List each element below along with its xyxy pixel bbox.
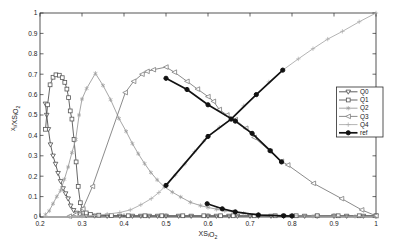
marker-plus-icon [326, 37, 330, 41]
marker-asterisk-icon [66, 165, 70, 169]
y-tick-label: 0.3 [28, 152, 37, 159]
marker-square-icon [68, 109, 72, 113]
marker-triangle-left-icon [172, 70, 177, 75]
marker-triangle-down-icon [58, 180, 63, 184]
marker-circle-filled-icon [254, 93, 258, 97]
series-line [46, 75, 377, 216]
x-tick-label: 0.5 [161, 220, 170, 227]
marker-square-icon [63, 80, 67, 84]
series-Q4 [67, 11, 378, 219]
marker-square-icon [60, 76, 64, 80]
marker-square-icon [336, 214, 340, 218]
marker-circle-filled-icon [164, 183, 168, 187]
marker-circle-filled-icon [256, 213, 260, 217]
marker-circle-filled-icon [290, 214, 294, 218]
chart-figure: 0.20.30.40.50.60.70.80.9100.10.20.30.40.… [0, 0, 395, 244]
marker-square-icon [44, 127, 48, 131]
x-tick-label: 1 [374, 220, 378, 227]
y-axis-label: xi/XSiO2 [9, 105, 21, 131]
marker-triangle-left-icon [145, 69, 150, 74]
x-tick-label: 0.9 [329, 220, 338, 227]
x-tick-label: 0.7 [245, 220, 254, 227]
marker-triangle-left-icon [339, 196, 344, 201]
marker-square-icon [160, 214, 164, 218]
y-tick-label: 0.6 [28, 91, 37, 98]
series-line [46, 104, 377, 216]
marker-asterisk-icon [179, 195, 183, 199]
marker-circle-filled-icon [185, 87, 189, 91]
series-Q3 [67, 65, 378, 219]
y-tick-label: 0.8 [28, 50, 37, 57]
legend: Q0Q1Q2Q3Q4ref [337, 87, 384, 137]
marker-triangle-left-icon [285, 163, 290, 168]
marker-circle-filled-icon [233, 119, 237, 123]
marker-plus-icon [357, 20, 361, 24]
marker-triangle-left-icon [151, 67, 156, 72]
marker-square-icon [76, 185, 80, 189]
marker-plus-icon [128, 208, 132, 212]
marker-square-icon [357, 214, 361, 218]
marker-square-icon [78, 201, 82, 205]
marker-triangle-down-icon [66, 197, 71, 201]
marker-circle-filled-icon [220, 207, 224, 211]
marker-square-icon [70, 117, 74, 121]
x-tick-label: 0.8 [287, 220, 296, 227]
series-line [69, 13, 376, 217]
marker-square-icon [219, 214, 223, 218]
marker-triangle-down-icon [63, 192, 68, 196]
marker-triangle-left-icon [90, 184, 95, 189]
marker-circle-filled-icon [346, 131, 350, 135]
chart-svg: 0.20.30.40.50.60.70.80.9100.10.20.30.40.… [0, 0, 395, 244]
marker-square-icon [46, 103, 50, 107]
marker-circle-filled-icon [206, 134, 210, 138]
marker-triangle-down-icon [56, 171, 61, 175]
y-tick-label: 0.1 [28, 193, 37, 200]
series-Q2 [44, 71, 378, 219]
marker-asterisk-icon [109, 98, 113, 102]
marker-asterisk-icon [80, 97, 84, 101]
marker-triangle-down-icon [51, 154, 56, 158]
marker-square-icon [202, 214, 206, 218]
series-line [46, 73, 377, 216]
series-layer [43, 11, 378, 219]
marker-asterisk-icon [70, 151, 74, 155]
marker-plus-icon [340, 29, 344, 33]
marker-plus-icon [374, 11, 378, 15]
legend-label: ref [360, 129, 368, 136]
marker-asterisk-icon [77, 113, 81, 117]
legend-label: Q4 [360, 121, 369, 129]
marker-square-icon [126, 214, 130, 218]
x-tick-label: 0.3 [77, 220, 86, 227]
marker-circle-filled-icon [233, 210, 237, 214]
marker-asterisk-icon [170, 190, 174, 194]
marker-plus-icon [139, 203, 143, 207]
marker-square-icon [84, 211, 88, 215]
marker-square-icon [181, 214, 185, 218]
marker-square-icon [48, 83, 52, 87]
marker-circle-filled-icon [164, 76, 168, 80]
y-tick-label: 0.9 [28, 30, 37, 37]
y-tick-label: 0 [34, 213, 38, 220]
series-ref [164, 68, 294, 218]
marker-triangle-down-icon [48, 143, 53, 147]
y-tick-label: 0.7 [28, 71, 37, 78]
axis-ticks: 0.20.30.40.50.60.70.80.9100.10.20.30.40.… [28, 9, 378, 226]
marker-circle-filled-icon [250, 131, 254, 135]
legend-label: Q2 [360, 104, 369, 112]
x-tick-label: 0.2 [35, 220, 44, 227]
legend-label: Q3 [360, 113, 369, 121]
series-line [69, 67, 376, 216]
x-tick-label: 0.6 [203, 220, 212, 227]
marker-circle-filled-icon [205, 202, 209, 206]
series-Q1 [44, 73, 378, 218]
legend-label: Q0 [360, 88, 369, 96]
y-tick-label: 1 [34, 9, 38, 16]
marker-triangle-down-icon [53, 162, 58, 166]
marker-square-icon [65, 87, 69, 91]
y-tick-label: 0.2 [28, 173, 37, 180]
marker-triangle-left-icon [164, 65, 169, 70]
x-tick-label: 0.4 [119, 220, 128, 227]
y-tick-label: 0.4 [28, 132, 37, 139]
marker-triangle-left-icon [359, 208, 364, 213]
marker-square-icon [74, 160, 78, 164]
